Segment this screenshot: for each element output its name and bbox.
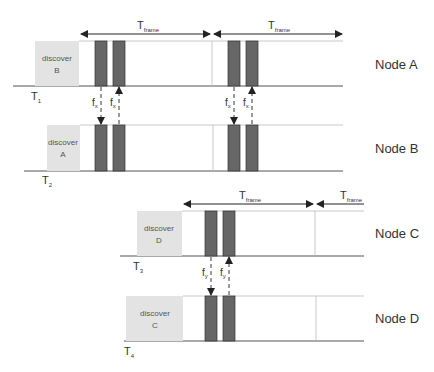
node-d-discover-line1: discover <box>140 309 170 318</box>
frame-arrows-cd: Tframe Tframe <box>184 189 364 204</box>
node-c-slot <box>223 211 235 256</box>
node-a-discover-line1: discover <box>42 54 72 63</box>
node-a-slot <box>246 41 258 86</box>
node-d-discover-line2: C <box>152 321 158 330</box>
node-a-label: Node A <box>375 57 418 72</box>
node-a-slot <box>228 41 240 86</box>
node-b-discover-line2: A <box>60 150 66 159</box>
frame-arrows-ab: Tframe Tframe <box>81 19 342 34</box>
node-c-slot <box>205 211 217 256</box>
node-d-time-label: T4 <box>124 345 135 359</box>
frame-label: Tframe <box>239 189 262 203</box>
message-label: fx <box>110 97 116 109</box>
message-label: fx <box>225 97 231 109</box>
node-a-timeline: discover B Node A T1 <box>13 41 418 104</box>
message-label: fx <box>92 97 98 109</box>
node-a-discover-line2: B <box>54 66 59 75</box>
messages-ab: fx fx fx fx <box>92 87 252 124</box>
message-label: fx <box>243 97 249 109</box>
message-label: fy <box>202 267 208 279</box>
node-b-slot <box>228 125 240 171</box>
frame-label: Tframe <box>137 19 160 33</box>
node-a-slot <box>113 41 125 86</box>
frame-label: Tframe <box>340 189 363 203</box>
frame-label: Tframe <box>268 19 291 33</box>
node-b-slot <box>95 125 107 171</box>
node-a-discover-box <box>35 41 79 86</box>
node-b-timeline: discover A Node B T2 <box>24 125 418 188</box>
node-d-discover-box <box>126 296 183 341</box>
node-d-timeline: discover C Node D T4 <box>124 296 419 359</box>
node-a-time-label: T1 <box>31 90 42 104</box>
node-d-label: Node D <box>375 311 419 326</box>
node-b-label: Node B <box>375 141 418 156</box>
node-c-discover-line2: D <box>156 236 162 245</box>
node-b-slot <box>113 125 125 171</box>
node-d-slot <box>205 296 217 341</box>
node-c-timeline: discover D Node C T3 <box>120 211 419 274</box>
node-b-slot <box>246 125 258 171</box>
node-b-time-label: T2 <box>42 174 53 188</box>
timing-diagram: discover B Node A T1 Tframe Tframe disco… <box>0 0 434 372</box>
messages-cd: fy fy <box>202 257 229 295</box>
node-c-discover-box <box>137 211 182 256</box>
node-b-discover-box <box>47 125 80 171</box>
message-label: fy <box>220 267 226 279</box>
node-c-discover-line1: discover <box>144 224 174 233</box>
node-c-label: Node C <box>375 226 419 241</box>
node-c-time-label: T3 <box>133 260 144 274</box>
node-d-slot <box>223 296 235 341</box>
node-a-slot <box>95 41 107 86</box>
node-b-discover-line1: discover <box>48 138 78 147</box>
